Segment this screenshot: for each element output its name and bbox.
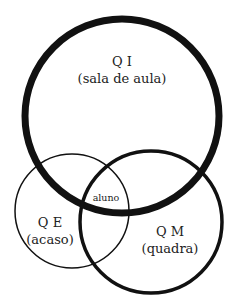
label-intersection: aluno (93, 192, 120, 203)
label-qi-title: Q I (78, 53, 167, 70)
label-qm-title: Q M (142, 223, 199, 240)
venn-svg (0, 0, 237, 308)
label-qi: Q I (sala de aula) (78, 53, 167, 87)
label-qe-subtitle: (acaso) (26, 231, 73, 248)
label-qm: Q M (quadra) (142, 223, 199, 257)
label-qm-subtitle: (quadra) (142, 240, 199, 257)
circle-qm (80, 151, 222, 293)
label-qi-subtitle: (sala de aula) (78, 70, 167, 87)
label-qe: Q E (acaso) (26, 214, 73, 248)
venn-diagram: Q I (sala de aula) aluno Q E (acaso) Q M… (0, 0, 237, 308)
label-qe-title: Q E (26, 214, 73, 231)
